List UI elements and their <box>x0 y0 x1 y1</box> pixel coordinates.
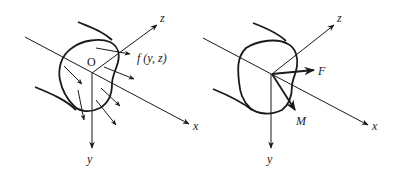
force-arrow <box>104 67 134 79</box>
z-axis-label: z <box>159 11 165 25</box>
figure-canvas: O z x y f (y, z) z x y F M <box>0 0 394 172</box>
beam-lower-edge <box>213 89 252 110</box>
right-panel: z x y F M <box>203 11 378 166</box>
z-axis-label: z <box>336 11 342 25</box>
force-arrow <box>78 90 84 120</box>
y-axis-label: y <box>86 152 93 166</box>
force-label: F <box>317 64 326 78</box>
distributed-force-label: f (y, z) <box>137 51 167 65</box>
beam-lower-edge <box>35 87 76 110</box>
moment-label: M <box>295 114 307 128</box>
distributed-force-arrows <box>64 48 134 125</box>
resultant-force-arrow <box>272 70 314 74</box>
cross-section-outline <box>238 41 297 114</box>
x-axis-label: x <box>192 119 199 133</box>
y-axis-label: y <box>266 152 273 166</box>
force-arrow <box>64 66 82 84</box>
origin-label: O <box>87 55 96 69</box>
x-axis <box>203 38 368 125</box>
x-axis-label: x <box>371 119 378 133</box>
beam-upper-edge <box>78 22 112 40</box>
beam-upper-edge <box>253 23 286 41</box>
left-panel: O z x y f (y, z) <box>25 11 199 166</box>
force-arrow <box>101 88 120 106</box>
